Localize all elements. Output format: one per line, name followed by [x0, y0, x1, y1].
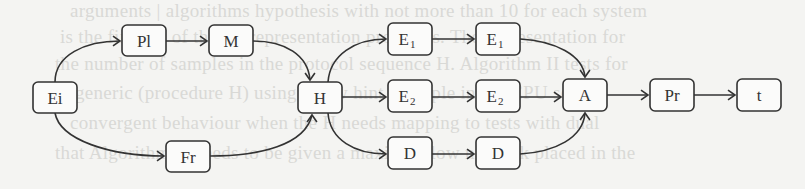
node-label: M: [223, 31, 238, 50]
edge-A-to-Pr: [607, 90, 648, 100]
edge-E1a-to-E1b: [432, 34, 474, 44]
edge-Ei-to-Pl: [55, 36, 120, 82]
node-label: Pl: [137, 31, 151, 50]
node-A: A: [563, 79, 607, 111]
node-label: D: [492, 144, 504, 163]
edge-Da-to-Db: [432, 149, 474, 159]
node-E1a: E1: [388, 23, 432, 55]
flow-diagram: EiPlMFrHE1E1E2E2DDAPrt: [0, 0, 805, 189]
edge-line: [520, 113, 585, 154]
node-label: t: [757, 86, 762, 105]
node-Pr: Pr: [650, 79, 694, 111]
node-M: M: [209, 25, 253, 56]
nodes-layer: EiPlMFrHE1E1E2E2DDAPrt: [33, 23, 781, 172]
edge-Fr-to-H: [210, 115, 317, 156]
edge-line: [253, 41, 310, 80]
node-label: A: [579, 86, 592, 105]
edge-line: [328, 39, 386, 82]
node-E1b: E1: [476, 23, 520, 55]
edge-E2a-to-E2b: [432, 92, 474, 102]
node-E2a: E2: [388, 80, 432, 112]
arrowhead-icon: [307, 115, 317, 122]
edge-line: [55, 41, 120, 82]
node-E2b: E2: [476, 80, 520, 112]
node-label: Ei: [47, 88, 62, 107]
edge-H-to-E2a: [342, 92, 386, 102]
edge-Pl-to-M: [166, 36, 207, 46]
node-label: Fr: [180, 147, 195, 166]
node-Db: D: [476, 137, 520, 169]
edge-line: [520, 39, 585, 77]
node-t: t: [737, 79, 781, 111]
node-Ei: Ei: [33, 82, 77, 113]
node-label: D: [404, 144, 416, 163]
edge-line: [55, 113, 164, 156]
node-Da: D: [388, 137, 432, 169]
edge-M-to-H: [253, 41, 315, 80]
edge-Db-to-A: [520, 113, 590, 154]
edge-Pr-to-t: [694, 90, 735, 100]
node-label: H: [314, 88, 326, 107]
edge-line: [210, 115, 312, 156]
edge-E2b-to-A: [520, 92, 561, 102]
edge-Ei-to-Fr: [55, 113, 164, 161]
node-Pl: Pl: [122, 25, 166, 56]
node-Fr: Fr: [166, 141, 210, 172]
edge-H-to-E1a: [328, 34, 386, 82]
edge-E1b-to-A: [520, 39, 590, 77]
node-H: H: [298, 82, 342, 113]
edge-H-to-Da: [328, 113, 386, 159]
edge-line: [328, 113, 386, 154]
node-label: Pr: [664, 86, 679, 105]
